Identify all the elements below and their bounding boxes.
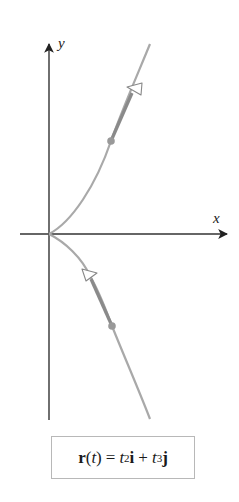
parametric-curve-diagram: y x	[0, 0, 239, 502]
formula-t-cubed-base: t	[152, 448, 157, 468]
tangent-arrow-lower-icon	[82, 269, 97, 281]
formula-box: r(t)=t2i+t3j	[51, 436, 195, 479]
y-axis-label: y	[56, 35, 65, 51]
formula-plus: +	[138, 448, 148, 468]
formula-r: r	[78, 448, 86, 468]
formula-close-paren: )	[96, 448, 102, 468]
x-axis-label: x	[212, 210, 220, 226]
tangent-segment-upper	[111, 93, 132, 141]
curve-upper-branch	[49, 44, 150, 234]
curve-lower-branch	[49, 234, 150, 419]
formula-equals: =	[106, 448, 116, 468]
point-on-curve-lower	[108, 322, 116, 330]
formula-j: j	[162, 448, 168, 468]
formula-i: i	[130, 448, 135, 468]
point-on-curve-upper	[107, 137, 115, 145]
tangent-segment-lower	[91, 279, 112, 326]
